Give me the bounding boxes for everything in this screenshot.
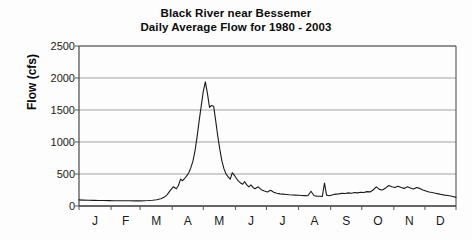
x-tick-label: O [366, 214, 390, 228]
x-tick-label: J [271, 214, 295, 228]
x-axis-tick-labels: JFMAMJJASOND [0, 214, 472, 236]
x-tick-label: A [303, 214, 327, 228]
x-tick-label: A [176, 214, 200, 228]
x-tick-label: M [144, 214, 168, 228]
plot-area [0, 0, 472, 240]
chart-figure: Black River near Bessemer Daily Average … [0, 0, 472, 240]
gridlines [79, 46, 456, 174]
x-tick-label: J [239, 214, 263, 228]
x-tick-label: D [428, 214, 452, 228]
data-series-group [79, 82, 456, 201]
x-tick-label: F [114, 214, 138, 228]
x-tick-label: N [397, 214, 421, 228]
x-tick-label: S [334, 214, 358, 228]
x-tick-label: J [83, 214, 107, 228]
axes-frame [79, 46, 456, 206]
x-tick-label: M [207, 214, 231, 228]
